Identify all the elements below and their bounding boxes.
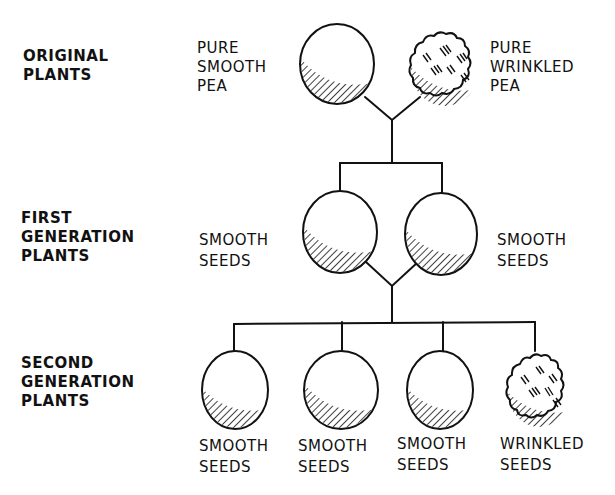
seed-label-first-left: SMOOTH SEEDS (199, 230, 269, 272)
label-line: GENERATION (21, 228, 134, 247)
generation-label-original: ORIGINAL PLANTS (23, 47, 109, 85)
seed-label-second-4: WRINKLED SEEDS (500, 434, 584, 476)
label-line: SMOOTH (197, 58, 267, 77)
wrinkled-pea-icon (409, 32, 479, 106)
label-line: SEEDS (500, 455, 584, 476)
label-line: SEEDS (199, 251, 269, 272)
generation-label-first: FIRST GENERATION PLANTS (21, 209, 134, 266)
label-line: SEEDS (298, 457, 368, 478)
label-line: SEEDS (397, 455, 467, 476)
label-line: PLANTS (21, 247, 134, 266)
label-line: FIRST (21, 209, 134, 228)
smooth-pea-icon (304, 351, 378, 429)
seed-label-pure-smooth: PURE SMOOTH PEA (197, 39, 267, 96)
label-line: PURE (197, 39, 267, 58)
seed-label-second-1: SMOOTH SEEDS (199, 436, 269, 478)
label-line: GENERATION (21, 373, 134, 392)
smooth-pea-icon (303, 191, 377, 273)
smooth-pea-icon (202, 351, 268, 429)
label-line: PLANTS (23, 66, 109, 85)
label-line: SEEDS (497, 251, 567, 272)
label-line: SMOOTH (397, 434, 467, 455)
wrinkled-pea-icon (506, 354, 570, 427)
label-line: PLANTS (21, 392, 134, 411)
label-line: WRINKLED (490, 58, 574, 77)
label-line: SMOOTH (199, 230, 269, 251)
label-line: SMOOTH (298, 436, 368, 457)
label-line: PEA (490, 77, 574, 96)
seed-label-pure-wrinkled: PURE WRINKLED PEA (490, 39, 574, 96)
connector-lines (234, 97, 535, 352)
label-line: SMOOTH (199, 436, 269, 457)
smooth-pea-icon (405, 193, 477, 275)
label-line: PEA (197, 77, 267, 96)
seed-label-second-2: SMOOTH SEEDS (298, 436, 368, 478)
seed-label-first-right: SMOOTH SEEDS (497, 230, 567, 272)
label-line: WRINKLED (500, 434, 584, 455)
seed-label-second-3: SMOOTH SEEDS (397, 434, 467, 476)
label-line: ORIGINAL (23, 47, 109, 66)
generation-label-second: SECOND GENERATION PLANTS (21, 354, 134, 411)
smooth-pea-icon (407, 351, 473, 429)
label-line: PURE (490, 39, 574, 58)
smooth-pea-icon (300, 24, 374, 104)
label-line: SECOND (21, 354, 134, 373)
label-line: SMOOTH (497, 230, 567, 251)
label-line: SEEDS (199, 457, 269, 478)
